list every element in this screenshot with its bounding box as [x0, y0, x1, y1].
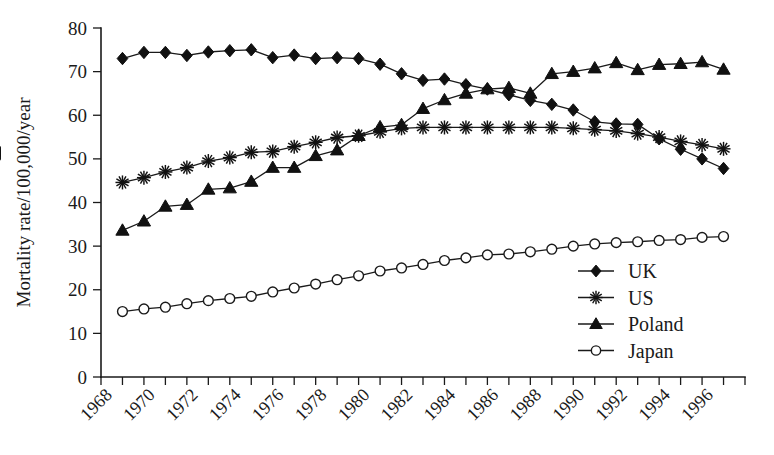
y-axis-ticks-group: 01020304050607080: [68, 18, 101, 388]
legend-item-uk: UK: [578, 260, 657, 282]
marker-filled-diamond: [267, 51, 278, 63]
y-tick-label: 80: [68, 18, 87, 39]
y-tick-label: 60: [68, 105, 87, 126]
marker-open-circle: [118, 307, 128, 317]
chart-legend: UKUSPolandJapan: [578, 260, 684, 363]
marker-asterisk: [330, 130, 344, 144]
marker-filled-triangle: [653, 58, 666, 69]
marker-open-circle: [590, 239, 600, 249]
marker-filled-diamond: [246, 44, 257, 56]
marker-open-circle: [332, 275, 342, 285]
y-tick-label: 10: [68, 323, 87, 344]
chart-canvas: Mortality rate/100,000/year 010203040506…: [0, 0, 774, 455]
marker-open-circle: [354, 271, 364, 281]
marker-asterisk: [309, 135, 323, 149]
marker-filled-diamond: [697, 153, 708, 165]
y-tick-label: 50: [68, 148, 87, 169]
marker-filled-triangle: [288, 161, 301, 172]
marker-filled-triangle: [502, 81, 515, 92]
marker-filled-diamond: [546, 98, 557, 110]
marker-open-circle: [139, 304, 149, 314]
marker-filled-triangle: [116, 224, 129, 235]
marker-filled-diamond: [139, 46, 150, 58]
marker-open-circle: [225, 294, 235, 304]
x-tick-label: 1972: [162, 385, 202, 425]
y-tick-label: 30: [68, 236, 87, 257]
marker-open-circle: [461, 253, 471, 263]
marker-filled-diamond: [568, 104, 579, 116]
legend-label: US: [628, 287, 654, 309]
marker-asterisk: [201, 154, 215, 168]
marker-filled-diamond: [289, 49, 300, 61]
marker-filled-triangle: [395, 118, 408, 129]
legend-label: Japan: [628, 340, 674, 363]
x-axis-ticks-group: 1968197019721974197619781980198219841986…: [76, 377, 745, 424]
y-tick-label: 40: [68, 192, 87, 213]
marker-filled-diamond: [117, 52, 128, 64]
marker-open-circle: [483, 250, 493, 260]
marker-open-circle: [591, 346, 600, 355]
marker-asterisk: [545, 120, 559, 134]
marker-filled-diamond: [396, 68, 407, 80]
legend-item-us: US: [578, 287, 654, 309]
y-tick-label: 0: [78, 367, 88, 388]
marker-asterisk: [695, 138, 709, 152]
marker-open-circle: [611, 238, 621, 248]
marker-open-circle: [203, 296, 213, 306]
marker-open-circle: [719, 232, 729, 242]
x-tick-label: 1992: [591, 385, 631, 425]
legend-item-japan: Japan: [578, 340, 674, 363]
marker-asterisk: [287, 140, 301, 154]
marker-asterisk: [115, 175, 129, 189]
marker-filled-triangle: [331, 144, 344, 155]
marker-open-circle: [654, 236, 664, 246]
marker-open-circle: [440, 256, 450, 266]
x-tick-label: 1996: [677, 385, 717, 425]
x-tick-label: 1990: [548, 385, 588, 425]
y-tick-label: 20: [68, 279, 87, 300]
legend-label: UK: [628, 260, 657, 282]
x-tick-label: 1976: [248, 385, 288, 425]
marker-filled-triangle: [266, 161, 279, 172]
marker-filled-diamond: [224, 44, 235, 56]
x-tick-label: 1970: [119, 385, 159, 425]
marker-filled-diamond: [310, 52, 321, 64]
marker-asterisk: [480, 120, 494, 134]
data-series-group: [0, 44, 731, 317]
marker-asterisk: [566, 121, 580, 135]
marker-open-circle: [268, 287, 278, 297]
marker-open-circle: [418, 260, 428, 270]
series-us: [0, 120, 731, 189]
x-tick-label: 1978: [291, 385, 331, 425]
marker-filled-diamond: [375, 58, 386, 70]
marker-open-circle: [547, 244, 557, 254]
marker-filled-triangle: [610, 56, 623, 67]
marker-filled-diamond: [353, 52, 364, 64]
y-axis-title: Mortality rate/100,000/year: [13, 97, 34, 308]
marker-open-circle: [161, 302, 171, 312]
legend-label: Poland: [628, 313, 684, 335]
marker-filled-diamond: [182, 49, 193, 61]
marker-asterisk: [437, 120, 451, 134]
marker-filled-triangle: [180, 198, 193, 209]
y-tick-label: 70: [68, 61, 87, 82]
marker-asterisk: [717, 142, 731, 156]
marker-open-circle: [525, 247, 535, 257]
marker-asterisk: [180, 161, 194, 175]
marker-asterisk: [158, 165, 172, 179]
marker-filled-triangle: [137, 215, 150, 226]
x-tick-label: 1984: [420, 385, 460, 425]
marker-filled-triangle: [590, 318, 603, 329]
marker-open-circle: [289, 283, 299, 293]
marker-open-circle: [375, 266, 385, 276]
marker-open-circle: [504, 249, 514, 259]
marker-filled-diamond: [439, 73, 450, 85]
marker-asterisk: [416, 120, 430, 134]
marker-asterisk: [223, 151, 237, 165]
marker-asterisk: [266, 144, 280, 158]
marker-filled-diamond: [718, 162, 729, 174]
marker-filled-triangle: [416, 102, 429, 113]
marker-filled-diamond: [160, 46, 171, 58]
x-tick-label: 1994: [634, 385, 674, 425]
marker-filled-triangle: [695, 55, 708, 66]
